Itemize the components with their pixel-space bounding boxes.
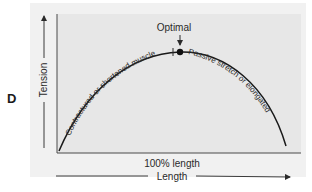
optimal-point [177,49,183,55]
length-tension-figure: D Tension Contractured or shortened musc… [0,0,312,192]
x-axis-label: Length [157,171,188,182]
y-axis-label: Tension [38,63,49,97]
optimal-label: Optimal [157,22,191,33]
plot-area [57,14,301,153]
length-tension-diagram: Tension Contractured or shortened muscle… [0,0,312,192]
x-marker-label: 100% length [144,158,200,169]
